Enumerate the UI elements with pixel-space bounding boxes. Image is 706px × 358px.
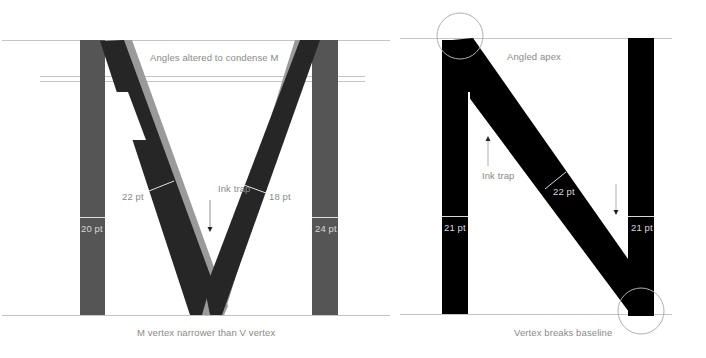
- m-right-diagonal-label: 18 pt: [269, 191, 291, 202]
- m-ink-trap-arrow-icon: [208, 227, 213, 232]
- n-ink-trap-label: Ink trap: [482, 170, 514, 181]
- n-left-stem: [442, 40, 468, 314]
- n-left-stem-label: 21 pt: [444, 222, 466, 233]
- m-left-stem: [80, 40, 105, 315]
- n-right-stem-label: 21 pt: [631, 222, 653, 233]
- n-inner-counter: [468, 92, 470, 314]
- typography-diagram: Angles altered to condense M Ink trap 22…: [0, 0, 706, 358]
- m-left-diagonal-label: 22 pt: [122, 191, 144, 202]
- n-diagonal-label: 22 pt: [553, 186, 575, 197]
- m-right-stem-label: 24 pt: [315, 223, 337, 234]
- n-bottom-caption: Vertex breaks baseline: [514, 327, 612, 338]
- n-ink-trap-arrow-up-icon: [486, 136, 491, 141]
- m-left-stem-label: 20 pt: [81, 223, 103, 234]
- m-top-caption: Angles altered to condense M: [150, 52, 279, 63]
- m-bottom-caption: M vertex narrower than V vertex: [137, 327, 275, 338]
- n-diagonal: [442, 38, 654, 316]
- diagram-canvas: [0, 0, 706, 358]
- n-top-caption: Angled apex: [507, 51, 561, 62]
- m-ink-trap-label: Ink trap: [218, 183, 250, 194]
- n-ink-trap-arrow-down-icon: [614, 210, 619, 215]
- m-right-stem: [312, 40, 338, 315]
